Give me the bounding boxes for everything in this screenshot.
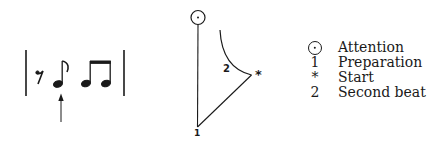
legend-label: Attention (338, 40, 404, 55)
legend-item-start: * Start (303, 70, 426, 85)
eighth-note-icon (53, 61, 68, 88)
legend-symbol: 1 (303, 55, 327, 70)
start-label: * (255, 67, 262, 82)
conducting-diagram (191, 11, 252, 128)
music-notation (26, 50, 124, 122)
eighth-rest-icon (36, 71, 43, 84)
legend-item-attention: Attention (303, 40, 426, 55)
start-line (198, 75, 252, 127)
legend-item-preparation: 1 Preparation (303, 55, 426, 70)
attention-circle-icon (308, 41, 322, 55)
legend-symbol: * (303, 70, 327, 85)
preparation-label: 1 (194, 128, 200, 138)
legend-symbol (303, 40, 327, 55)
legend-symbol: 2 (303, 85, 327, 100)
legend-label: Preparation (338, 55, 422, 70)
second-beat-label: 2 (223, 63, 230, 74)
legend-label: Second beat (338, 85, 426, 100)
arrow-up-icon (58, 94, 63, 123)
preparation-line (198, 25, 199, 128)
beamed-eighth-notes-icon (81, 61, 112, 88)
legend-label: Start (338, 70, 374, 85)
legend: Attention 1 Preparation * Start 2 Second… (303, 40, 426, 100)
legend-item-second-beat: 2 Second beat (303, 85, 426, 100)
